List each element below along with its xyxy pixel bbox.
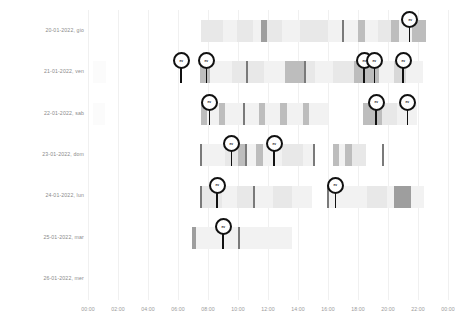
activity-segment [93,61,106,83]
activity-segment [287,103,303,125]
activity-segment [303,144,314,166]
y-axis-tick-label: 21-01-2022, ven [4,68,84,74]
event-marker-icon[interactable]: ev [327,177,344,194]
x-axis-tick-label: 22:00 [411,306,424,312]
y-axis-tick-label: 24-01-2022, lun [4,192,84,198]
x-axis-tick-label: 08:00 [201,306,214,312]
activity-segment [237,20,254,42]
activity-segment [315,61,333,83]
activity-segment [265,103,280,125]
activity-segment [196,227,214,249]
activity-segment [256,144,263,166]
y-axis-tick-label: 22-01-2022, sab [4,110,84,116]
activity-segment [367,186,387,208]
event-marker-icon[interactable]: ev [215,218,232,235]
activity-segment [387,186,395,208]
activity-segment [345,144,353,166]
x-axis-tick-label: 02:00 [111,306,124,312]
event-marker-icon[interactable]: ev [209,177,226,194]
x-axis-tick-label: 18:00 [351,306,364,312]
activity-segment [328,20,342,42]
activity-segment [238,144,245,166]
x-axis-tick-label: 06:00 [171,306,184,312]
x-axis: 00:0002:0004:0006:0008:0010:0012:0014:00… [88,306,448,320]
x-axis-tick-label: 00:00 [441,306,454,312]
activity-segment [264,61,285,83]
event-marker-label: ev [179,59,183,63]
event-marker-icon[interactable]: ev [223,135,240,152]
activity-segment [333,61,354,83]
event-marker-icon[interactable]: ev [368,94,385,111]
plot-area: evevevevevevevevevevevevevev [88,10,448,300]
activity-segment [240,227,257,249]
activity-segment [303,103,310,125]
event-marker-icon[interactable]: ev [201,94,218,111]
event-marker-label: ev [406,100,410,104]
event-marker-icon[interactable]: ev [395,52,412,69]
activity-segment [378,20,392,42]
activity-timeline-chart: 20-01-2022, gio21-01-2022, ven22-01-2022… [0,0,455,327]
x-axis-tick-label: 10:00 [231,306,244,312]
y-axis-tick-label: 25-01-2022, mar [4,234,84,240]
activity-segment [202,144,225,166]
timeline-row: ev [88,217,448,258]
activity-segment [277,227,292,249]
activity-segment [382,103,397,125]
activity-segment [349,186,367,208]
activity-segment [394,186,411,208]
activity-segment [391,20,399,42]
x-axis-tick-label: 04:00 [141,306,154,312]
y-axis-labels: 20-01-2022, gio21-01-2022, ven22-01-2022… [0,10,84,300]
event-marker-label: ev [205,59,209,63]
gridline [448,10,449,300]
event-marker-label: ev [334,183,338,187]
activity-segment [313,144,315,166]
event-marker-label: ev [272,142,276,146]
x-axis-tick-label: 00:00 [81,306,94,312]
event-marker-icon[interactable]: ev [399,94,416,111]
activity-segment [365,20,378,42]
activity-segment [280,103,287,125]
activity-segment [309,103,328,125]
y-axis-tick-label: 23-01-2022, dom [4,151,84,157]
event-marker-icon[interactable]: ev [266,135,283,152]
x-axis-tick-label: 16:00 [321,306,334,312]
y-axis-tick-label: 20-01-2022, gio [4,27,84,33]
activity-segment [267,20,281,42]
activity-segment [318,20,329,42]
activity-segment [411,186,425,208]
activity-segment [201,20,223,42]
timeline-row: evevevevev [88,51,448,92]
activity-segment [282,20,300,42]
timeline-row: evevev [88,93,448,134]
event-marker-label: ev [221,225,225,229]
activity-segment [292,186,312,208]
activity-segment [237,186,254,208]
activity-segment [285,61,305,83]
activity-segment [258,227,278,249]
activity-segment [306,61,314,83]
activity-segment [333,144,340,166]
x-axis-tick-label: 14:00 [291,306,304,312]
activity-segment [352,144,366,166]
activity-segment [282,144,303,166]
activity-segment [255,186,272,208]
event-marker-label: ev [229,142,233,146]
activity-segment [232,61,246,83]
activity-segment [93,103,105,125]
timeline-row: evev [88,134,448,175]
event-marker-label: ev [401,59,405,63]
timeline-row: evev [88,176,448,217]
event-marker-label: ev [408,18,412,22]
event-marker-label: ev [373,59,377,63]
x-axis-tick-label: 20:00 [381,306,394,312]
event-marker-icon[interactable]: ev [173,52,190,69]
activity-segment [223,20,237,42]
activity-segment [245,103,259,125]
x-axis-tick-label: 12:00 [261,306,274,312]
activity-segment [300,20,318,42]
event-marker-label: ev [208,100,212,104]
activity-segment [358,20,365,42]
event-marker-label: ev [374,100,378,104]
activity-segment [248,61,264,83]
